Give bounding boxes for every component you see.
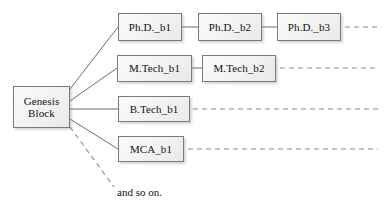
block-node-ph-d-b1[interactable]: Ph.D._b1 <box>118 13 182 41</box>
root-to-and-so-on <box>70 127 114 187</box>
block-node-m-tech-b2[interactable]: M.Tech_b2 <box>202 55 276 82</box>
blockchain-tree-diagram: Genesis BlockPh.D._b1Ph.D._b2Ph.D._b3M.T… <box>0 0 386 208</box>
block-node-m-tech-b1[interactable]: M.Tech_b1 <box>117 55 192 82</box>
root-to-mca-b1 <box>70 119 118 149</box>
root-to-phd-b1 <box>70 27 118 89</box>
block-node-b-tech-b1[interactable]: B.Tech_b1 <box>118 96 190 122</box>
genesis-block-node[interactable]: Genesis Block <box>13 86 70 128</box>
block-node-ph-d-b2[interactable]: Ph.D._b2 <box>198 13 262 41</box>
and-so-on-label: and so on. <box>117 186 162 198</box>
root-to-mtech-b1 <box>70 68 117 101</box>
block-node-ph-d-b3[interactable]: Ph.D._b3 <box>277 13 341 41</box>
block-node-mca-b1[interactable]: MCA_b1 <box>118 136 184 162</box>
